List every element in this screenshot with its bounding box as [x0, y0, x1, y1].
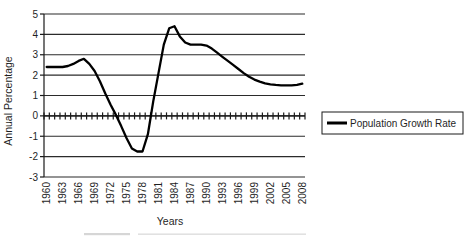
svg-text:1990: 1990	[201, 182, 212, 205]
x-axis: 1960196319661969197219751978198119841987…	[41, 112, 308, 204]
x-axis-title: Years	[157, 215, 183, 227]
legend: Population Growth Rate	[322, 112, 463, 134]
cropped-caption-remnant	[84, 233, 306, 235]
svg-text:5: 5	[32, 9, 38, 20]
svg-text:1975: 1975	[121, 182, 132, 205]
caption-smudge	[84, 233, 130, 235]
svg-text:3: 3	[32, 49, 38, 60]
svg-text:1969: 1969	[89, 182, 100, 205]
svg-text:1966: 1966	[73, 182, 84, 205]
svg-text:-3: -3	[29, 172, 38, 183]
svg-text:1: 1	[32, 90, 38, 101]
legend-label: Population Growth Rate	[350, 118, 457, 129]
svg-text:4: 4	[32, 29, 38, 40]
horizontal-gridlines	[44, 14, 305, 177]
svg-text:1984: 1984	[169, 182, 180, 205]
svg-text:2: 2	[32, 70, 38, 81]
svg-text:-2: -2	[29, 151, 38, 162]
svg-text:2008: 2008	[297, 182, 308, 205]
svg-text:1963: 1963	[57, 182, 68, 205]
svg-text:2002: 2002	[265, 182, 276, 205]
caption-smudge	[138, 233, 306, 235]
svg-text:0: 0	[32, 110, 38, 121]
svg-text:1993: 1993	[217, 182, 228, 205]
svg-text:1981: 1981	[153, 182, 164, 205]
series-population-growth-rate-line	[47, 26, 303, 151]
y-axis-title: Annual Percentage	[2, 56, 14, 145]
svg-text:1996: 1996	[233, 182, 244, 205]
chart-canvas: 543210-1-2-3 196019631966196919721975197…	[0, 0, 468, 240]
svg-text:1960: 1960	[41, 182, 52, 205]
svg-text:-1: -1	[29, 131, 38, 142]
svg-text:2005: 2005	[281, 182, 292, 205]
svg-text:1978: 1978	[137, 182, 148, 205]
y-axis: 543210-1-2-3	[29, 9, 44, 183]
population-growth-rate-figure: 543210-1-2-3 196019631966196919721975197…	[0, 0, 468, 240]
svg-text:1972: 1972	[105, 182, 116, 205]
svg-text:1987: 1987	[185, 182, 196, 205]
svg-text:1999: 1999	[249, 182, 260, 205]
